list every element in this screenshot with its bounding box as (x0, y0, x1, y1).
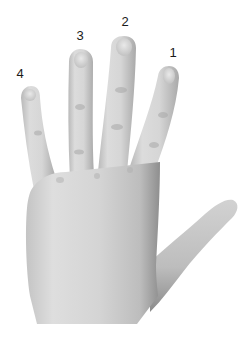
pinky-nail (24, 89, 36, 101)
ring-nail (74, 52, 88, 68)
palm (26, 162, 160, 324)
finger-label-middle: 2 (121, 15, 128, 28)
hand-photo-illustration (0, 0, 249, 342)
figure-caption-cutoff (6, 336, 246, 342)
finger-middle (98, 36, 136, 172)
finger-ring (68, 49, 94, 180)
finger-label-ring: 3 (76, 29, 83, 42)
thumb (150, 200, 237, 312)
middle-nail (116, 38, 132, 56)
finger-label-pinky: 4 (16, 67, 23, 80)
finger-pinky (21, 86, 56, 190)
hand-figure: 1 2 3 4 (0, 0, 249, 342)
finger-label-index: 1 (169, 46, 176, 59)
index-nail (163, 68, 175, 84)
